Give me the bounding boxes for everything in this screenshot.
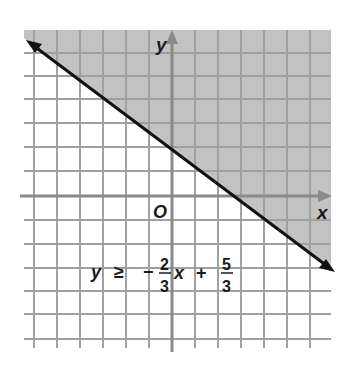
const-denominator: 3 [222,278,231,295]
inequality-graph: y x O y ≥ − 2 3 x + 5 3 [0,0,355,373]
y-axis-label: y [155,34,168,55]
inequality-sign: − [143,262,154,282]
x-axis-label: x [316,202,329,223]
inequality-plus: + [196,263,207,283]
coef-numerator: 2 [160,256,169,273]
const-numerator: 5 [222,256,231,273]
inequality-label: y ≥ − 2 3 x + 5 3 [86,252,254,300]
coef-denominator: 3 [160,278,169,295]
origin-label: O [153,202,167,222]
inequality-lhs: y [90,262,102,282]
inequality-relation: ≥ [114,262,124,282]
inequality-var: x [173,263,185,283]
